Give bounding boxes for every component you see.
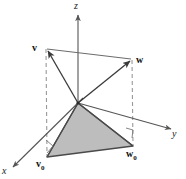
origin-point [76,101,79,104]
vector-v0-label: v0 [36,159,45,172]
vector-v-label: v [32,43,37,53]
vector-w0-label: w0 [126,149,137,162]
vector-w-label: w [136,55,143,65]
figure-container: z x y v w v0 w0 [0,0,186,179]
vector-origin-to-w [78,61,130,103]
edge-v-to-w [47,49,131,59]
z-axis-label: z [74,1,78,11]
x-axis-label: x [2,166,6,176]
vector-origin-to-v [48,51,78,103]
vector-v0-subscript: 0 [41,164,45,172]
vector-w0-subscript: 0 [133,154,137,162]
y-axis-label: y [172,129,176,139]
shaded-triangle-region [47,103,133,157]
right-angle-marker-w0 [126,128,133,138]
vector-diagram-svg [0,0,186,179]
